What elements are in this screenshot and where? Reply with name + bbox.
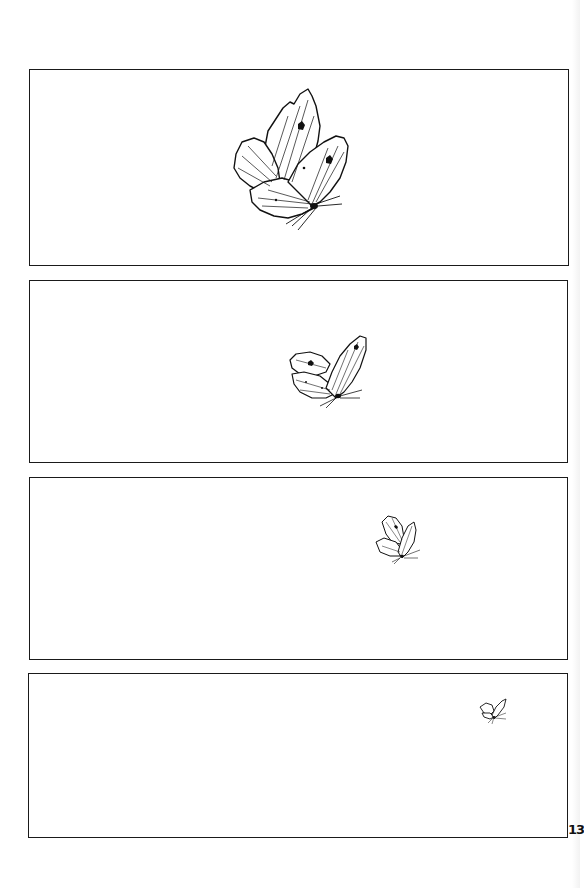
- page-number: 13: [568, 822, 584, 837]
- comic-panel-3: [29, 477, 568, 660]
- butterfly-icon-large: [228, 86, 354, 232]
- butterfly-icon-tiny: [478, 697, 510, 725]
- butterfly-icon-small: [374, 512, 424, 568]
- butterfly-icon-medium: [286, 332, 370, 410]
- page-edge-shadow: [572, 0, 580, 888]
